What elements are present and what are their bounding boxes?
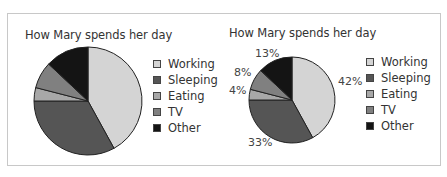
swatch-other — [366, 122, 374, 130]
label-eating: 4% — [229, 84, 246, 97]
legend-item-tv: TV — [366, 102, 431, 118]
legend-item-eating: Eating — [366, 86, 431, 102]
legend-label: TV — [381, 103, 396, 117]
swatch-tv — [366, 106, 374, 114]
legend-item-other: Other — [366, 118, 431, 134]
swatch-sleeping — [366, 74, 374, 82]
label-tv: 8% — [234, 66, 251, 79]
label-working: 42% — [338, 75, 362, 88]
swatch-eating — [366, 90, 374, 98]
label-sleeping: 33% — [248, 136, 272, 149]
legend-label: Other — [381, 119, 414, 133]
label-other: 13% — [255, 47, 279, 60]
legend-label: Working — [381, 55, 428, 69]
legend-item-working: Working — [366, 54, 431, 70]
legend-label: Eating — [381, 87, 418, 101]
swatch-working — [366, 58, 374, 66]
legend-label: Sleeping — [381, 71, 431, 85]
right-legend: Working Sleeping Eating TV Other — [366, 54, 431, 134]
legend-item-sleeping: Sleeping — [366, 70, 431, 86]
